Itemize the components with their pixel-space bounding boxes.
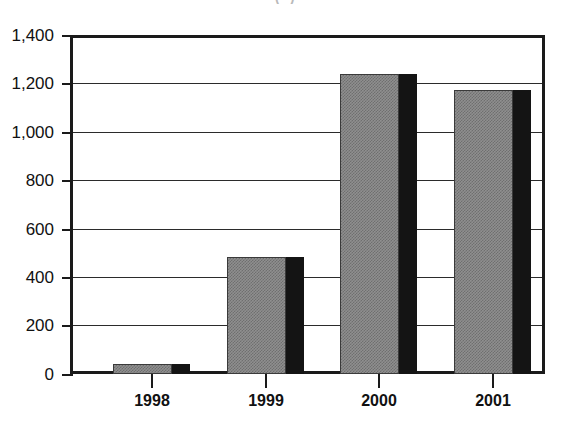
x-tick-2000 — [378, 374, 380, 388]
x-tick-2001 — [492, 374, 494, 388]
bar-chart-figure: ( ) 1,400 1,200 1,000 800 600 400 200 0 — [0, 0, 570, 432]
x-tick-1998 — [151, 374, 153, 388]
x-axis-label-2000: 2000 — [361, 392, 397, 410]
x-tick-1999 — [265, 374, 267, 388]
x-axis-label-1998: 1998 — [134, 392, 170, 410]
x-axis-label-2001: 2001 — [475, 392, 511, 410]
x-axis: 1998 1999 2000 2001 — [0, 0, 570, 432]
x-axis-label-1999: 1999 — [248, 392, 284, 410]
